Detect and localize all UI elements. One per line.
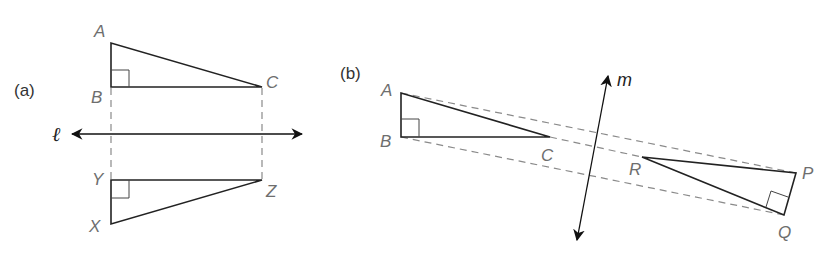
panel-a-label: (a) (14, 81, 35, 100)
right-angle-mark-b2 (401, 119, 419, 137)
vertex-b2-label: B (380, 132, 391, 151)
triangle-xyz (111, 180, 262, 224)
vertex-b-label: B (91, 88, 102, 107)
dashed-line-a-p (401, 93, 796, 173)
line-m-label: m (617, 70, 632, 90)
triangle-abc-a (111, 43, 262, 87)
vertex-a-label: A (93, 22, 105, 41)
line-l-label: ℓ (52, 122, 61, 146)
vertex-c2-label: C (541, 146, 554, 165)
dashed-line-b-q (401, 137, 784, 215)
reflection-line-m (577, 76, 608, 240)
vertex-y-label: Y (92, 170, 105, 189)
reflection-diagram: (a) ℓ A B C Y X Z (b) m A B C (0, 0, 829, 264)
vertex-q-label: Q (778, 223, 791, 242)
vertex-z-label: Z (265, 182, 277, 201)
panel-b-label: (b) (340, 64, 361, 83)
triangle-abc-b (401, 93, 550, 137)
right-angle-mark-b (111, 70, 129, 87)
triangle-pqr (642, 157, 796, 215)
panel-b: (b) m A B C R P Q (340, 64, 814, 242)
vertex-x-label: X (88, 217, 101, 236)
panel-a: (a) ℓ A B C Y X Z (14, 22, 302, 236)
vertex-p-label: P (802, 164, 814, 183)
vertex-r-label: R (629, 160, 641, 179)
vertex-c-label: C (266, 73, 279, 92)
right-angle-mark-q (766, 191, 788, 207)
vertex-a2-label: A (380, 81, 392, 100)
right-angle-mark-y (111, 180, 129, 198)
